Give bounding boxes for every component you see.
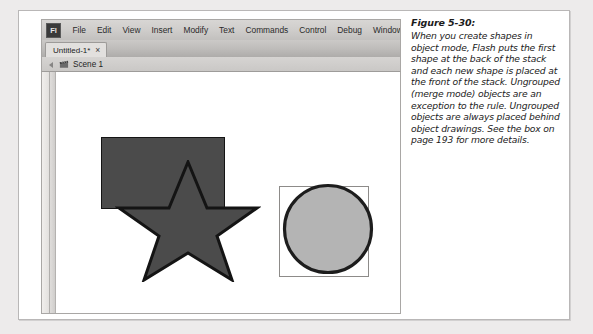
shape-circle[interactable] [282,183,374,275]
scene-label[interactable]: Scene 1 [73,60,103,69]
menu-item-control[interactable]: Control [294,21,332,40]
menu-item-file[interactable]: File [67,21,92,40]
figure-caption: Figure 5-30: When you create shapes in o… [411,17,561,146]
menu-bar: Fl File Edit View Insert Modify Text Com… [41,19,401,40]
menu-item-insert[interactable]: Insert [146,21,178,40]
scene-bar: Scene 1 [41,57,401,72]
stage-canvas[interactable] [57,72,400,313]
document-tab-untitled-1[interactable]: Untitled-1* × [45,42,107,57]
menu-item-text[interactable]: Text [214,21,240,40]
menu-item-edit[interactable]: Edit [92,21,117,40]
figure-caption-body: When you create shapes in object mode, F… [411,30,561,146]
document-tab-label: Untitled-1* [53,46,90,55]
figure-caption-title: Figure 5-30: [411,17,561,29]
flash-logo-icon: Fl [46,23,61,38]
menu-item-modify[interactable]: Modify [178,21,214,40]
menu-item-debug[interactable]: Debug [332,21,368,40]
menu-item-window[interactable]: Window [367,21,401,40]
figure-page: Fl File Edit View Insert Modify Text Com… [0,0,593,334]
menu-item-view[interactable]: View [117,21,146,40]
close-icon[interactable]: × [95,46,100,54]
document-tab-bar: Untitled-1* × [41,40,401,57]
stage-container [41,72,401,314]
menu-item-commands[interactable]: Commands [240,21,294,40]
scene-clapperboard-icon [59,60,69,69]
flash-application-window: Fl File Edit View Insert Modify Text Com… [41,19,401,314]
back-arrow-icon[interactable] [48,61,55,68]
rail-divider [49,72,50,313]
shape-star[interactable] [115,160,261,282]
figure-frame: Fl File Edit View Insert Modify Text Com… [18,10,570,320]
vertical-scroll-rail[interactable] [42,72,56,313]
